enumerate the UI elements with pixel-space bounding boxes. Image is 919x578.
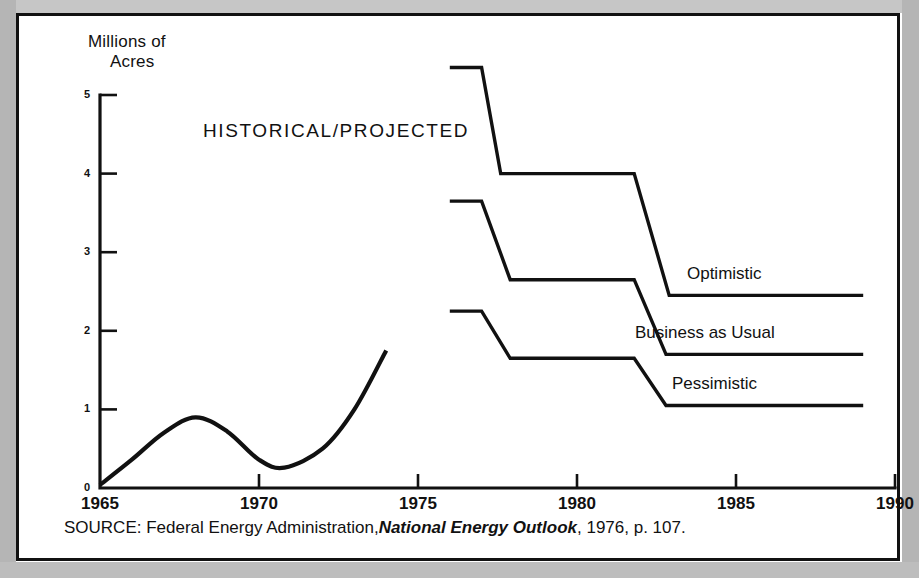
source-prefix: SOURCE: Federal Energy Administration, (64, 518, 379, 537)
x-axis-tick-label: 1985 (696, 494, 776, 514)
chart-canvas: 012345196519701975198019851990 (0, 0, 919, 578)
series-label-business-as-usual: Business as Usual (635, 323, 775, 343)
y-axis-tick-label: 0 (74, 481, 90, 493)
series-line-historical (100, 350, 386, 485)
chart-svg (0, 0, 919, 578)
y-axis-tick-label: 3 (74, 245, 90, 257)
y-axis-tick-label: 1 (74, 402, 90, 414)
source-caption: SOURCE: Federal Energy Administration,Na… (64, 518, 686, 538)
x-axis-tick-label: 1980 (537, 494, 617, 514)
source-publication-title: National Energy Outlook (379, 518, 577, 537)
x-axis-tick-label: 1965 (60, 494, 140, 514)
series-label-optimistic: Optimistic (687, 264, 762, 284)
series-label-pessimistic: Pessimistic (672, 374, 757, 394)
series-line-optimistic (450, 68, 863, 296)
chart-annotation: HISTORICAL/PROJECTED (203, 120, 469, 142)
y-axis-tick-label: 2 (74, 324, 90, 336)
x-axis-tick-label: 1975 (378, 494, 458, 514)
figure-page: 012345196519701975198019851990 Millions … (0, 0, 919, 578)
y-axis-tick-label: 4 (74, 167, 90, 179)
y-axis-title: Millions ofAcres (88, 32, 166, 72)
y-axis-tick-label: 5 (74, 88, 90, 100)
source-suffix: , 1976, p. 107. (577, 518, 686, 537)
x-axis-tick-label: 1990 (855, 494, 919, 514)
y-axis-title-line2: Acres (88, 52, 154, 72)
y-axis-title-line1: Millions of (88, 32, 166, 51)
x-axis-tick-label: 1970 (219, 494, 299, 514)
